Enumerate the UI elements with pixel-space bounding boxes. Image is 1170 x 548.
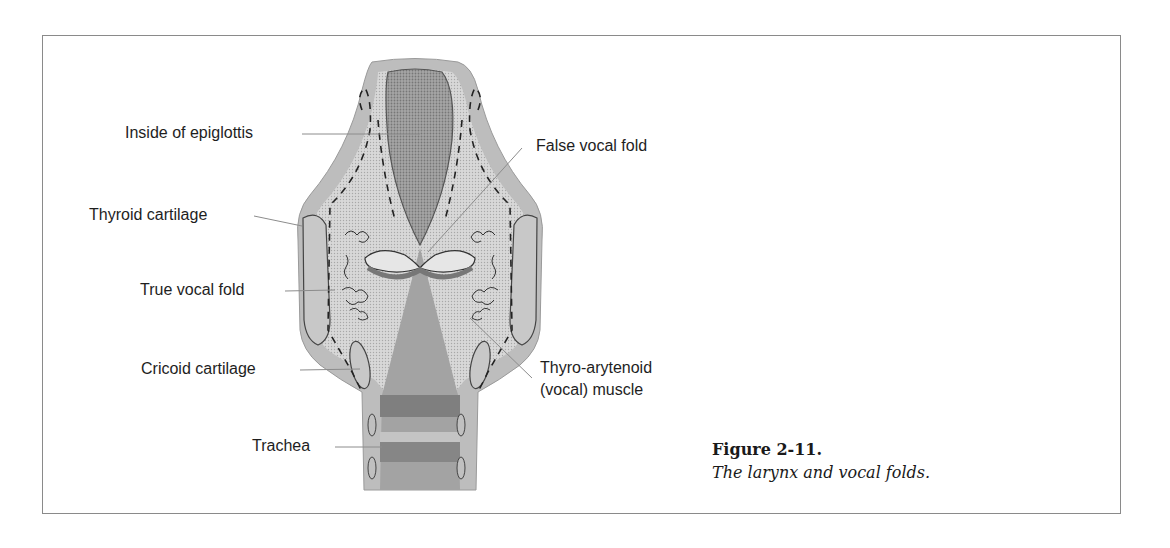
label-thyroid-cartilage: Thyroid cartilage <box>89 205 207 225</box>
label-trachea: Trachea <box>252 436 310 456</box>
tracheal-ring-right-1 <box>457 414 465 436</box>
label-thyro-arytenoid-line1: Thyro-arytenoid <box>540 358 652 378</box>
figure-number: Figure 2-11. <box>712 440 822 460</box>
trachea-ring-1 <box>380 395 460 417</box>
leader-line-thyroid <box>254 216 302 226</box>
thyroid-cartilage-right <box>510 215 537 345</box>
trachea-ring-3 <box>380 442 460 462</box>
larynx-illustration <box>0 0 1170 548</box>
label-true-vocal-fold: True vocal fold <box>140 280 244 300</box>
trachea-ring-2 <box>380 432 460 442</box>
label-thyro-arytenoid-line2: (vocal) muscle <box>540 380 643 400</box>
tracheal-ring-right-2 <box>457 457 465 479</box>
label-cricoid-cartilage: Cricoid cartilage <box>141 359 256 379</box>
tracheal-ring-left-1 <box>368 414 376 436</box>
label-inside-epiglottis: Inside of epiglottis <box>125 123 253 143</box>
figure-caption: The larynx and vocal folds. <box>712 463 930 483</box>
tracheal-ring-left-2 <box>368 457 376 479</box>
thyroid-cartilage-left <box>303 215 330 345</box>
label-false-vocal-fold: False vocal fold <box>536 136 647 156</box>
